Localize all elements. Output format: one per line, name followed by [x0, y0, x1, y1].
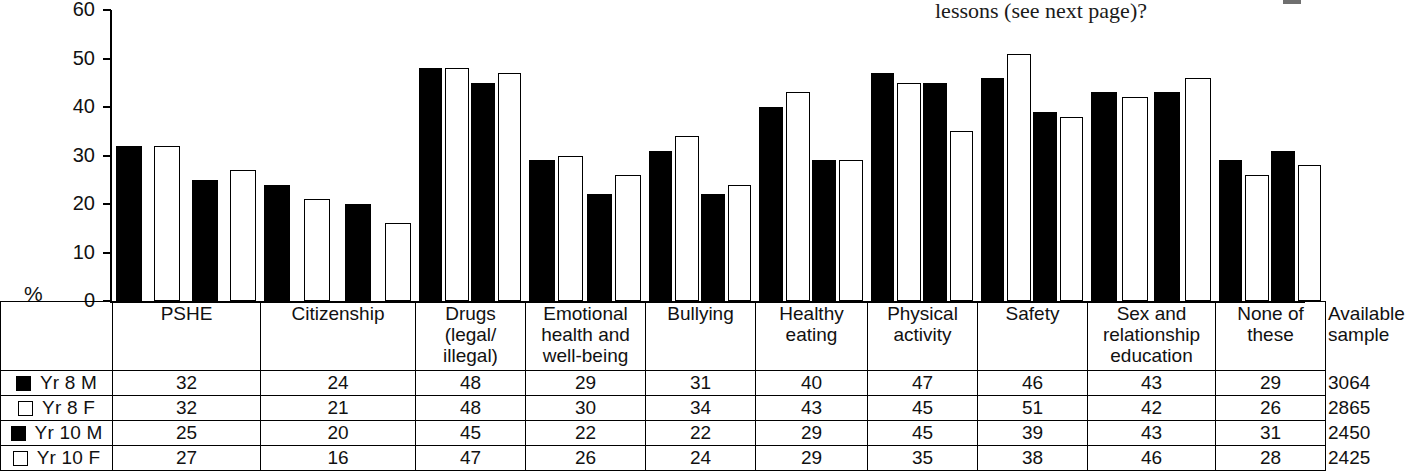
data-table: PSHECitizenshipDrugs(legal/illegal)Emoti… — [0, 301, 1326, 471]
column-header-line: Emotional — [528, 303, 643, 324]
bar — [1154, 92, 1180, 301]
column-header-line: eating — [758, 324, 865, 345]
y-tick-mark — [103, 203, 111, 205]
column-header-line: None of these — [1218, 303, 1323, 345]
y-tick-label: 50 — [55, 48, 95, 68]
table-cell-value: 26 — [1216, 396, 1326, 421]
bar — [1060, 117, 1083, 301]
bar — [675, 136, 698, 301]
column-header-line: Sex and — [1090, 303, 1213, 324]
table-cell-value: 48 — [416, 371, 526, 396]
hollow-square-icon — [13, 451, 28, 466]
table-cell-value: 42 — [1088, 396, 1216, 421]
bar — [529, 160, 555, 301]
bar — [498, 73, 521, 301]
bar — [1185, 78, 1211, 301]
table-cell-value: 31 — [646, 371, 756, 396]
filled-square-icon — [11, 426, 26, 441]
column-header: Citizenship — [261, 302, 416, 371]
column-header-line: health and — [528, 324, 643, 345]
series-label: Yr 8 M — [40, 372, 97, 393]
bar — [445, 68, 468, 301]
bar — [950, 131, 973, 301]
table-cell-value: 16 — [261, 446, 416, 471]
column-header-line: relationship — [1090, 324, 1213, 345]
table-cell-value: 46 — [1088, 446, 1216, 471]
table-cell-value: 34 — [646, 396, 756, 421]
table-cell-value: 22 — [526, 421, 646, 446]
y-tick-mark — [103, 252, 111, 254]
column-header: Emotionalhealth andwell-being — [526, 302, 646, 371]
y-tick-label: 40 — [55, 96, 95, 116]
bar — [1007, 54, 1030, 301]
column-header-line: well-being — [528, 345, 643, 366]
column-header: Physicalactivity — [868, 302, 978, 371]
column-header: Drugs(legal/illegal) — [416, 302, 526, 371]
bar — [385, 223, 411, 301]
series-label: Yr 10 M — [35, 422, 103, 443]
table-cell-value: 32 — [113, 396, 261, 421]
table-cell-value: 51 — [978, 396, 1088, 421]
table-cell-value: 29 — [1216, 371, 1326, 396]
table-cell-value: 22 — [646, 421, 756, 446]
column-header-line: Citizenship — [263, 303, 413, 324]
series-legend-cell: Yr 8 M — [1, 371, 113, 396]
table-cell-value: 29 — [756, 421, 868, 446]
series-legend-cell: Yr 10 F — [1, 446, 113, 471]
bar — [1245, 175, 1268, 301]
bar — [812, 160, 836, 301]
bar — [923, 83, 946, 301]
column-header: Bullying — [646, 302, 756, 371]
table-header-row: PSHECitizenshipDrugs(legal/illegal)Emoti… — [1, 302, 1326, 371]
bar-chart: % 6050403020100 — [0, 0, 1305, 312]
bar — [897, 83, 920, 301]
table-row: Yr 10 M252045222229453943312450 — [1, 421, 1326, 446]
y-tick-label: 20 — [55, 193, 95, 213]
table-cell-value: 35 — [868, 446, 978, 471]
bar — [839, 160, 863, 301]
y-tick-label: 60 — [55, 0, 95, 19]
column-header-line: activity — [870, 324, 975, 345]
series-label: Yr 8 F — [42, 397, 95, 418]
column-header: None of these — [1216, 302, 1326, 371]
table-cell-value: 29 — [526, 371, 646, 396]
table-cell-value: 47 — [868, 371, 978, 396]
bar — [701, 194, 724, 301]
table-cell-value: 43 — [1088, 371, 1216, 396]
table-cell-value: 24 — [261, 371, 416, 396]
bar — [615, 175, 641, 301]
series-legend-cell: Yr 10 M — [1, 421, 113, 446]
column-header-line: Safety — [980, 303, 1085, 324]
bar — [871, 73, 894, 301]
table-cell-value: 24 — [646, 446, 756, 471]
table-cell-value: 32 — [113, 371, 261, 396]
table-cell-value: 21 — [261, 396, 416, 421]
y-tick-mark — [103, 58, 111, 60]
bar — [1033, 112, 1056, 301]
bar — [1091, 92, 1117, 301]
table-cell-value: 47 — [416, 446, 526, 471]
column-header-line: education — [1090, 345, 1213, 366]
bar — [728, 185, 751, 301]
bar — [264, 185, 290, 301]
column-header-line: (legal/ — [418, 324, 523, 345]
table-row: Yr 8 F322148303443455142262865 — [1, 396, 1326, 421]
bar — [419, 68, 442, 301]
column-header-line: PSHE — [115, 303, 258, 324]
column-header: PSHE — [113, 302, 261, 371]
bar — [587, 194, 613, 301]
table-cell-value: 45 — [416, 421, 526, 446]
bar — [154, 146, 180, 301]
table-row: Yr 8 M322448293140474643293064 — [1, 371, 1326, 396]
column-header: Safety — [978, 302, 1088, 371]
bar — [981, 78, 1004, 301]
table-cell-value: 45 — [868, 396, 978, 421]
bar — [230, 170, 256, 301]
table-cell-value: 30 — [526, 396, 646, 421]
y-tick-mark — [103, 9, 111, 11]
series-legend-cell: Yr 8 F — [1, 396, 113, 421]
column-header: Sex andrelationshipeducation — [1088, 302, 1216, 371]
table-cell-value: 31 — [1216, 421, 1326, 446]
table-cell-value: 43 — [756, 396, 868, 421]
y-tick-mark — [103, 106, 111, 108]
